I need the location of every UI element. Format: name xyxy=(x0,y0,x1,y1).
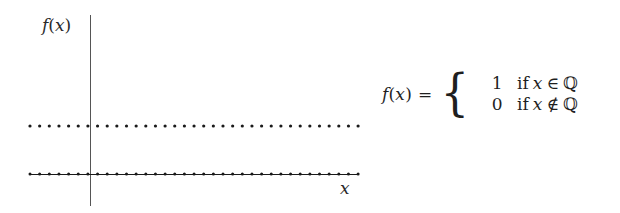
data-point xyxy=(193,173,196,176)
data-point xyxy=(28,124,31,127)
data-point xyxy=(57,173,60,176)
data-point xyxy=(154,124,157,127)
data-point xyxy=(86,124,89,127)
data-point xyxy=(48,173,51,176)
data-point xyxy=(241,173,244,176)
case-value: 0 xyxy=(477,96,517,114)
data-point xyxy=(212,124,215,127)
data-point xyxy=(96,124,99,127)
data-point xyxy=(318,173,321,176)
data-point xyxy=(299,124,302,127)
formula-cases: 1 ifx∈ℚ 0 ifx∉ℚ xyxy=(477,75,578,114)
data-point xyxy=(328,173,331,176)
data-point xyxy=(135,124,138,127)
data-point xyxy=(125,124,128,127)
data-point xyxy=(115,173,118,176)
data-point xyxy=(241,124,244,127)
y-axis-label: f(x) xyxy=(42,17,71,34)
data-point xyxy=(279,124,282,127)
data-point xyxy=(270,173,273,176)
element-of-icon: ∈ xyxy=(546,73,559,93)
data-point xyxy=(250,124,253,127)
data-point xyxy=(29,173,32,176)
formula-equals-sign: = xyxy=(418,84,432,104)
data-point xyxy=(38,124,41,127)
data-point xyxy=(289,173,292,176)
data-point xyxy=(337,124,340,127)
data-point xyxy=(202,124,205,127)
case-variable: x xyxy=(533,94,543,114)
data-point xyxy=(86,173,89,176)
data-point xyxy=(222,173,225,176)
formula-lhs-close-paren: ) xyxy=(405,84,412,104)
data-point xyxy=(164,173,167,176)
data-point xyxy=(173,173,176,176)
data-point xyxy=(347,173,350,176)
formula-lhs: f(x) xyxy=(382,84,412,104)
data-point xyxy=(164,124,167,127)
not-element-of-icon: ∉ xyxy=(546,94,559,114)
data-point xyxy=(38,173,41,176)
series-one-dots xyxy=(28,124,359,127)
data-point xyxy=(77,173,80,176)
data-point xyxy=(144,173,147,176)
case-value: 1 xyxy=(477,75,517,93)
data-point xyxy=(173,124,176,127)
data-point xyxy=(357,124,360,127)
data-point xyxy=(308,173,311,176)
data-point xyxy=(96,173,99,176)
x-axis-label: x xyxy=(340,180,350,197)
data-point xyxy=(183,173,186,176)
data-point xyxy=(357,173,360,176)
dirichlet-function-figure: f(x) x f(x) = { 1 ifx∈ℚ 0 ifx∉ℚ xyxy=(0,0,620,213)
data-point xyxy=(289,124,292,127)
piecewise-formula: f(x) = { 1 ifx∈ℚ 0 ifx∉ℚ xyxy=(382,66,578,122)
data-point xyxy=(212,173,215,176)
data-point xyxy=(135,173,138,176)
data-point xyxy=(318,124,321,127)
data-point xyxy=(67,124,70,127)
data-point xyxy=(144,124,147,127)
data-point xyxy=(260,124,263,127)
y-axis-label-close-paren: ) xyxy=(65,15,72,35)
data-point xyxy=(192,124,195,127)
data-point xyxy=(231,124,234,127)
data-point xyxy=(270,124,273,127)
data-point xyxy=(260,173,263,176)
data-point xyxy=(77,124,80,127)
data-point xyxy=(202,173,205,176)
data-point xyxy=(279,173,282,176)
data-point xyxy=(106,124,109,127)
data-point xyxy=(57,124,60,127)
data-point xyxy=(347,124,350,127)
formula-case-row: 0 ifx∉ℚ xyxy=(477,96,578,114)
case-condition: ifx∈ℚ xyxy=(517,75,578,93)
data-point xyxy=(115,124,118,127)
formula-lhs-var: x xyxy=(395,84,405,104)
case-condition: ifx∉ℚ xyxy=(517,96,578,114)
data-point xyxy=(221,124,224,127)
data-point xyxy=(308,124,311,127)
case-keyword-if: if xyxy=(517,94,529,114)
case-keyword-if: if xyxy=(517,73,529,93)
data-point xyxy=(48,124,51,127)
data-point xyxy=(183,124,186,127)
data-point xyxy=(299,173,302,176)
data-point xyxy=(106,173,109,176)
case-variable: x xyxy=(533,73,543,93)
data-point xyxy=(154,173,157,176)
formula-case-row: 1 ifx∈ℚ xyxy=(477,75,578,93)
data-point xyxy=(231,173,234,176)
data-point xyxy=(250,173,253,176)
y-axis-label-open-paren: ( xyxy=(48,15,55,35)
series-zero-line xyxy=(29,173,360,176)
rationals-set-symbol: ℚ xyxy=(563,73,578,93)
y-axis-label-var: x xyxy=(55,15,65,35)
function-plot: f(x) x xyxy=(0,0,380,213)
data-point xyxy=(125,173,128,176)
rationals-set-symbol: ℚ xyxy=(563,94,578,114)
data-point xyxy=(328,124,331,127)
data-point xyxy=(67,173,70,176)
data-point xyxy=(337,173,340,176)
